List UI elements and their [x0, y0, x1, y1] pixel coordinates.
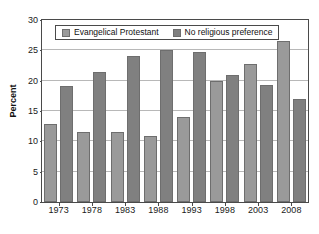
- bar-2003-series1: [260, 85, 273, 202]
- y-axis-tick-labels: 051015202530: [13, 19, 38, 203]
- bar-1993-series0: [177, 117, 190, 202]
- chart-legend: Evangelical ProtestantNo religious prefe…: [55, 25, 279, 40]
- bar-1983-series1: [127, 56, 140, 202]
- bar-2003-series0: [244, 64, 257, 202]
- y-axis-tick-label: 25: [16, 45, 38, 55]
- y-axis-tick-label: 10: [16, 136, 38, 146]
- y-axis-tick-label: 15: [16, 106, 38, 116]
- legend-entry: No religious preference: [173, 28, 273, 37]
- bar-1988-series0: [144, 136, 157, 202]
- bar-1983-series0: [111, 132, 124, 202]
- bar-group: [277, 20, 306, 202]
- bar-group: [244, 20, 273, 202]
- bar-2008-series0: [277, 41, 290, 202]
- x-axis-tick-labels: 19731978198319881993199820032008: [42, 205, 308, 221]
- legend-label: No religious preference: [185, 28, 273, 37]
- y-axis-tick-label: 5: [16, 167, 38, 177]
- bar-2008-series1: [293, 99, 306, 202]
- legend-entry: Evangelical Protestant: [62, 28, 159, 37]
- bar-1978-series0: [77, 132, 90, 202]
- bar-group: [144, 20, 173, 202]
- bar-groups: [42, 20, 308, 202]
- bar-group: [111, 20, 140, 202]
- bar-group: [77, 20, 106, 202]
- y-axis-tick-label: 20: [16, 76, 38, 86]
- bar-1978-series1: [93, 72, 106, 202]
- bar-1973-series0: [44, 124, 57, 202]
- x-axis-tick-label: 2008: [271, 205, 311, 215]
- chart-figure: Percent 051015202530 1973197819831988199…: [0, 0, 319, 234]
- legend-label: Evangelical Protestant: [74, 28, 159, 37]
- bar-1993-series1: [193, 52, 206, 202]
- y-axis-tick-label: 0: [16, 197, 38, 207]
- bar-1998-series0: [210, 81, 223, 202]
- legend-swatch-icon: [173, 29, 181, 37]
- bar-group: [177, 20, 206, 202]
- legend-swatch-icon: [62, 29, 70, 37]
- bar-group: [44, 20, 73, 202]
- y-axis-tick-label: 30: [16, 15, 38, 25]
- bar-1988-series1: [160, 50, 173, 202]
- bar-1973-series1: [60, 86, 73, 202]
- bar-group: [210, 20, 239, 202]
- bar-1998-series1: [226, 75, 239, 202]
